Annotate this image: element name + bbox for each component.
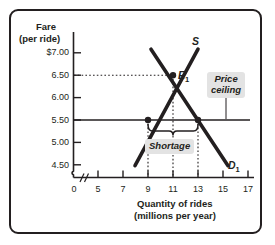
x-axis-title-line2: (millions per year) xyxy=(134,211,216,221)
y-tick-label-5-50: 5.50 xyxy=(29,116,69,125)
q-supplied-marker xyxy=(145,117,151,123)
axis-break-squiggle xyxy=(72,168,74,178)
x-axis-title-line1: Quantity of rides xyxy=(137,199,212,209)
demand-curve-label: D1 xyxy=(228,160,240,174)
y-axis-title-line2: (per ride) xyxy=(19,34,60,44)
y-tick-label-5-00: 5.00 xyxy=(29,138,69,147)
y-tick-label-7-00: $7.00 xyxy=(29,48,69,57)
x-tick-label-13: 13 xyxy=(184,185,212,194)
q-demanded-marker xyxy=(195,117,201,123)
supply-curve-label: S xyxy=(192,36,199,47)
demand-curve-label-subscript: 1 xyxy=(236,165,240,174)
y-tick-label-6-00: 6.00 xyxy=(29,93,69,102)
x-tick-label-7: 7 xyxy=(109,185,137,194)
equilibrium-label-subscript: 1 xyxy=(185,75,189,84)
y-tick-label-4-50: 4.50 xyxy=(29,161,69,170)
y-tick-label-6-50: 6.50 xyxy=(29,71,69,80)
shortage-callout: Shortage xyxy=(145,139,194,154)
economics-figure: Fare (per ride) $7.00 6.50 6.00 5.50 5.0… xyxy=(0,0,275,245)
equilibrium-label: E1 xyxy=(178,70,189,84)
demand-curve-label-text: D xyxy=(228,159,236,171)
y-axis-ticks xyxy=(74,53,82,165)
x-tick-label-5: 5 xyxy=(84,185,112,194)
price-ceiling-label-line1: Price xyxy=(214,73,237,84)
equilibrium-label-text: E xyxy=(178,69,185,81)
x-axis-ticks xyxy=(98,171,248,178)
x-tick-label-11: 11 xyxy=(159,185,187,194)
y-axis-title-line1: Fare xyxy=(36,22,56,32)
x-tick-label-17: 17 xyxy=(234,185,262,194)
axes xyxy=(72,32,254,182)
x-tick-label-15: 15 xyxy=(209,185,237,194)
x-tick-label-9: 9 xyxy=(134,185,162,194)
price-ceiling-callout: Price ceiling xyxy=(207,72,245,98)
equilibrium-marker xyxy=(170,72,176,78)
price-ceiling-label-line2: ceiling xyxy=(211,84,241,95)
